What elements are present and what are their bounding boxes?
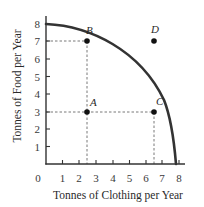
label-c: C [156, 95, 164, 107]
axes [45, 16, 185, 165]
svg-text:7: 7 [35, 35, 41, 47]
svg-text:4: 4 [35, 88, 41, 100]
label-b: B [86, 24, 93, 36]
reference-lines [46, 41, 154, 164]
svg-text:2: 2 [76, 172, 82, 184]
svg-text:0: 0 [35, 172, 41, 184]
svg-text:5: 5 [127, 172, 133, 184]
label-d: D [150, 23, 159, 35]
y-axis-title: Tonnes of Food per Year [11, 29, 24, 142]
ppf-curve [46, 24, 176, 164]
point-b [84, 38, 90, 44]
point-c [151, 109, 157, 115]
svg-text:2: 2 [35, 123, 41, 135]
svg-text:7: 7 [159, 172, 165, 184]
svg-text:8: 8 [35, 18, 41, 30]
svg-text:5: 5 [35, 71, 41, 83]
ppf-chart: B A C D 8 7 6 5 4 3 2 1 0 1 2 3 4 5 6 7 … [0, 0, 204, 207]
svg-text:1: 1 [60, 172, 66, 184]
svg-text:8: 8 [176, 172, 182, 184]
svg-text:3: 3 [35, 106, 41, 118]
svg-text:6: 6 [35, 53, 41, 65]
svg-text:3: 3 [93, 172, 99, 184]
svg-text:4: 4 [110, 172, 116, 184]
x-axis-title: Tonnes of Clothing per Year [53, 189, 183, 202]
label-a: A [89, 96, 97, 108]
point-d [151, 38, 157, 44]
svg-text:6: 6 [143, 172, 149, 184]
x-tick-labels: 0 1 2 3 4 5 6 7 8 [35, 172, 182, 184]
point-a [84, 109, 90, 115]
svg-text:1: 1 [35, 141, 41, 153]
y-tick-labels: 8 7 6 5 4 3 2 1 [35, 18, 41, 153]
